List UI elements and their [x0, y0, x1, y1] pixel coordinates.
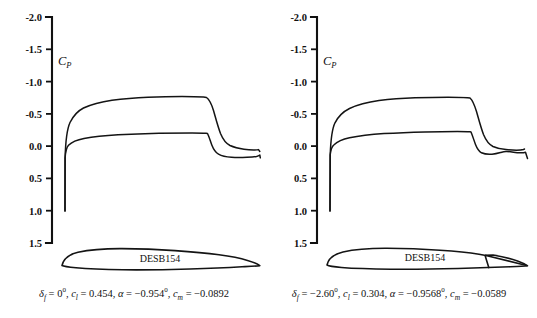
- caption-alpha-symbol: α: [118, 288, 124, 299]
- caption-cm-sub: m: [455, 293, 460, 302]
- y-tick-label: 0.5: [29, 173, 42, 184]
- y-tick-label: -0.5: [290, 109, 307, 120]
- caption-cm-value: −0.0589: [471, 288, 506, 299]
- y-tick-label: 0.0: [29, 141, 42, 152]
- y-tick-label: -0.5: [25, 109, 42, 120]
- caption-alpha-value: −0.9568: [407, 288, 442, 299]
- caption-alpha-value: −0.954: [135, 288, 165, 299]
- caption-cm-value: −0.0892: [194, 288, 229, 299]
- caption-delta-sub: f: [44, 293, 46, 302]
- caption-cl-sub: l: [348, 293, 350, 302]
- caption-alpha-symbol: α: [390, 288, 396, 299]
- y-tick-label: 0.5: [294, 173, 307, 184]
- y-tick-label: -1.5: [25, 44, 42, 55]
- caption-delta-value: −2.60: [310, 288, 334, 299]
- y-tick-label: 1.5: [29, 238, 42, 249]
- y-tick-label: -1.0: [25, 77, 42, 88]
- y-tick-label: 0.0: [294, 141, 307, 152]
- caption-delta-sub: f: [297, 293, 299, 302]
- curve-upper-surface: [65, 97, 260, 211]
- y-tick-label: 1.5: [294, 238, 307, 249]
- pressure-distribution-figure: -2.0 -1.5 -1.0 -0.5 0.0 0.5 1.0 1.5 CP D…: [0, 0, 537, 318]
- curve-lower-surface: [330, 132, 528, 212]
- caption-cl-value: 0.304: [361, 288, 385, 299]
- curve-lower-surface: [65, 133, 260, 211]
- caption-right: δf = −2.600, cl = 0.304, α = −0.95680, c…: [265, 286, 533, 302]
- airfoil-label: DESB154: [405, 252, 446, 263]
- caption-cm-sub: m: [178, 293, 183, 302]
- caption-cl-sub: l: [76, 293, 78, 302]
- caption-cl-value: 0.454: [89, 288, 113, 299]
- y-axis-title: CP: [58, 54, 72, 70]
- airfoil-label: DESB154: [140, 253, 181, 264]
- y-tick-label: -1.0: [290, 77, 307, 88]
- panel-left: -2.0 -1.5 -1.0 -0.5 0.0 0.5 1.0 1.5 CP D…: [0, 0, 268, 318]
- plot-area-right: -2.0 -1.5 -1.0 -0.5 0.0 0.5 1.0 1.5 CP D…: [265, 0, 533, 290]
- plot-area-left: -2.0 -1.5 -1.0 -0.5 0.0 0.5 1.0 1.5 CP D…: [0, 0, 268, 290]
- y-axis-line: [311, 17, 317, 243]
- y-axis-tick-labels: -2.0 -1.5 -1.0 -0.5 0.0 0.5 1.0 1.5: [290, 12, 307, 249]
- panel-right: -2.0 -1.5 -1.0 -0.5 0.0 0.5 1.0 1.5 CP D…: [265, 0, 533, 318]
- y-tick-label: -2.0: [25, 12, 42, 23]
- y-tick-label: 1.0: [29, 206, 42, 217]
- y-axis-title: CP: [323, 54, 337, 70]
- y-tick-label: 1.0: [294, 206, 307, 217]
- y-axis-line: [46, 17, 52, 243]
- y-axis-tick-labels: -2.0 -1.5 -1.0 -0.5 0.0 0.5 1.0 1.5: [25, 12, 42, 249]
- y-tick-label: -2.0: [290, 12, 307, 23]
- y-tick-label: -1.5: [290, 44, 307, 55]
- caption-left: δf = 00, cl = 0.454, α = −0.9540, cm = −…: [0, 286, 268, 302]
